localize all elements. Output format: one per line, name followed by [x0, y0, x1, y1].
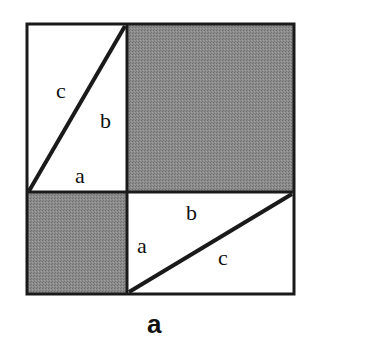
large-shaded-square [127, 24, 294, 192]
diagonal-bottom-right [129, 194, 292, 292]
label-a-top: a [75, 163, 85, 188]
label-c-top: c [56, 78, 66, 103]
label-b-bottom: b [186, 200, 197, 225]
label-b-top: b [100, 108, 111, 133]
pythagoras-diagram: c b a b a c a [0, 0, 366, 347]
small-shaded-square [27, 192, 127, 294]
label-c-bottom: c [218, 245, 228, 270]
figure-caption: a [147, 309, 162, 339]
label-a-bottom: a [137, 233, 147, 258]
